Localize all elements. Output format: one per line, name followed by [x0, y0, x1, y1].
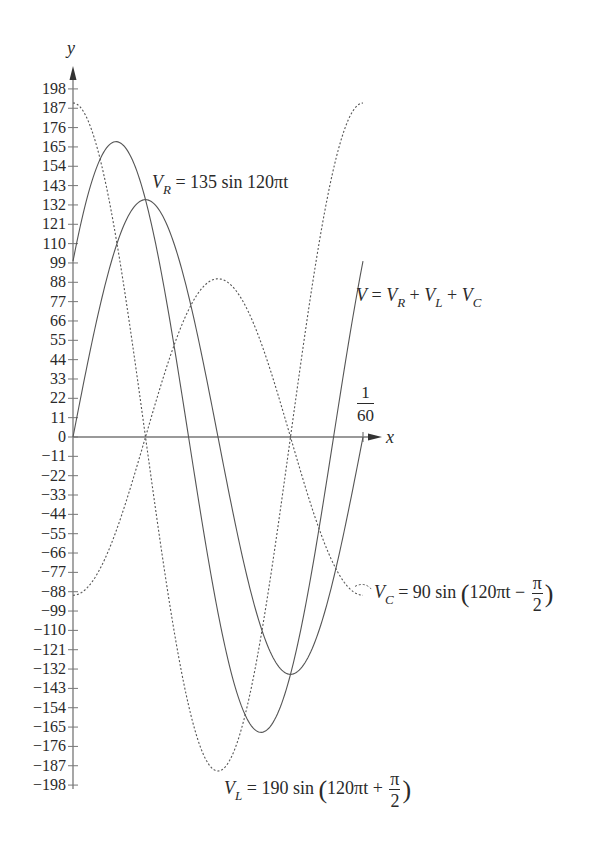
y-tick-label: −132	[33, 660, 66, 677]
y-tick-label: −33	[41, 486, 66, 503]
y-tick-label: −66	[41, 544, 66, 561]
y-tick-label: −44	[41, 505, 66, 522]
y-tick-label: −176	[33, 737, 66, 754]
y-tick-label: 143	[42, 177, 66, 194]
y-tick-label: −198	[33, 776, 66, 793]
y-tick-label: 33	[50, 370, 66, 387]
y-ticks: 1981871761651541431321211109988776655443…	[33, 80, 78, 793]
y-axis-arrow-icon	[70, 66, 77, 80]
y-tick-label: −88	[41, 583, 66, 600]
vc-equation: VC = 90 sin (120πt − π2)	[374, 574, 554, 614]
y-tick-label: 11	[51, 409, 66, 426]
y-tick-label: 88	[50, 273, 66, 290]
period-label: 1 60	[357, 384, 374, 424]
y-tick-label: 165	[42, 138, 66, 155]
y-tick-label: 154	[42, 157, 66, 174]
y-axis-label: y	[65, 38, 75, 58]
y-tick-label: −11	[42, 447, 66, 464]
vc-leader	[355, 584, 372, 590]
y-tick-label: −187	[33, 757, 66, 774]
y-tick-label: 176	[42, 119, 66, 136]
y-tick-label: −154	[33, 699, 66, 716]
y-tick-label: 66	[50, 312, 66, 329]
y-tick-label: 198	[42, 80, 66, 97]
v-total-equation: V = VR + VL + VC	[356, 285, 481, 311]
y-tick-label: −165	[33, 718, 66, 735]
y-tick-label: −121	[33, 641, 66, 658]
voltage-chart: 1981871761651541431321211109988776655443…	[0, 0, 615, 843]
vr-equation: VR = 135 sin 120πt	[152, 172, 288, 198]
y-tick-label: 121	[42, 215, 66, 232]
y-tick-label: −99	[41, 602, 66, 619]
y-tick-label: −110	[34, 621, 66, 638]
x-axis-label: x	[385, 427, 394, 447]
y-tick-label: 55	[50, 331, 66, 348]
y-tick-label: −22	[41, 467, 66, 484]
y-tick-label: −55	[41, 525, 66, 542]
y-tick-label: 0	[58, 428, 66, 445]
y-tick-label: 132	[42, 196, 66, 213]
y-tick-label: −77	[41, 563, 66, 580]
y-tick-label: 44	[50, 351, 66, 368]
vl-equation: VL = 190 sin (120πt + π2)	[224, 770, 411, 810]
y-tick-label: 77	[50, 293, 66, 310]
x-axis-arrow-icon	[368, 434, 382, 441]
y-tick-label: 22	[50, 389, 66, 406]
y-tick-label: 99	[50, 254, 66, 271]
y-tick-label: 187	[42, 99, 66, 116]
y-tick-label: 110	[43, 235, 66, 252]
y-tick-label: −143	[33, 679, 66, 696]
